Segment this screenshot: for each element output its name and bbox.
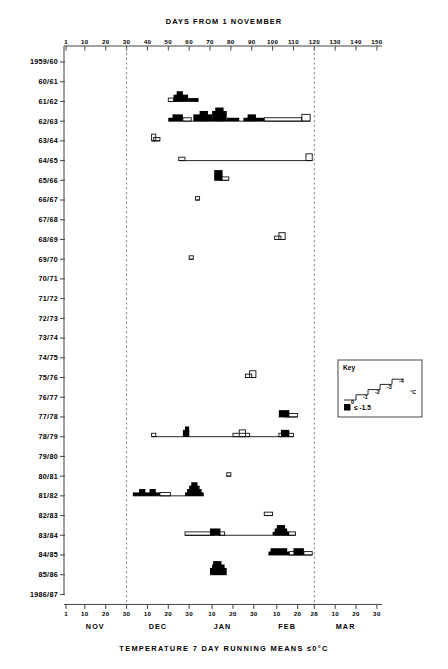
cold-spell-filled (279, 410, 289, 417)
data-row (264, 512, 272, 515)
cold-spell-filled (213, 561, 221, 575)
data-row (152, 426, 294, 436)
chart-caption: TEMPERATURE 7 DAY RUNNING MEANS ≤0°C (119, 644, 328, 653)
y-axis-year-label: 83/84 (39, 531, 59, 540)
cold-spell-filled (172, 114, 182, 121)
bottom-axis-month-label: MAR (336, 622, 356, 631)
bottom-axis-month-label: NOV (86, 622, 105, 631)
y-axis-year-label: 64/65 (39, 156, 59, 165)
y-axis-year-label: 85/86 (39, 570, 59, 579)
bottom-axis-tick-label: 30 (373, 610, 381, 617)
y-axis-year-label: 66/67 (39, 195, 59, 204)
data-row (245, 371, 255, 378)
top-axis-tick-label: 60 (185, 38, 193, 45)
bottom-axis-month-label: DEC (149, 622, 167, 631)
data-row (214, 170, 229, 180)
cold-spell-outline (154, 137, 160, 140)
y-axis-year-label: 68/69 (39, 235, 59, 244)
bottom-axis-tick-label: 30 (250, 610, 258, 617)
top-axis-tick-label: 10 (81, 38, 89, 45)
top-axis-tick-label: 70 (206, 38, 214, 45)
data-row (268, 548, 312, 555)
cold-spell-outline (168, 98, 173, 101)
temperature-running-means-chart: DAYS FROM 1 NOVEMBER11020304050607080901… (0, 0, 448, 669)
data-row (152, 134, 160, 141)
data-row (227, 473, 231, 476)
cold-spell-outline (152, 433, 156, 436)
cold-spell-outline (275, 236, 281, 239)
top-axis-tick-label: 30 (123, 38, 131, 45)
y-axis-year-label: 63/64 (39, 136, 59, 145)
cold-spell-filled (133, 492, 160, 495)
y-axis-year-label: 82/83 (39, 511, 59, 520)
top-axis-tick-label: 100 (267, 38, 279, 45)
cold-spell-filled (150, 489, 156, 496)
cold-spell-outline (185, 532, 214, 535)
y-axis-year-label: 78/79 (39, 432, 59, 441)
y-axis-year-label: 1959/60 (30, 57, 58, 66)
y-axis-year-label: 75/76 (39, 373, 59, 382)
cold-spell-filled (191, 482, 197, 496)
y-axis-year-label: 71/72 (39, 294, 59, 303)
cold-spell-outline (227, 473, 231, 476)
top-axis-tick-label: 40 (144, 38, 152, 45)
top-axis-tick-label: 50 (165, 38, 173, 45)
y-axis-year-label: 73/74 (39, 333, 59, 342)
cold-spell-filled (185, 426, 189, 436)
bottom-axis-tick-label: 20 (352, 610, 360, 617)
cold-spell-filled (281, 430, 289, 437)
cold-spell-filled (277, 525, 285, 535)
cold-spell-outline (160, 492, 170, 495)
y-axis-year-label: 74/75 (39, 353, 59, 362)
cold-spell-filled (177, 91, 183, 101)
y-axis-year-label: 72/73 (39, 314, 59, 323)
data-row (179, 154, 313, 161)
cold-spell-outline (306, 154, 312, 161)
cold-spell-filled (293, 548, 303, 555)
cold-spell-outline (189, 256, 193, 259)
y-axis-year-label: 70/71 (39, 274, 59, 283)
bottom-axis-tick-label: 20 (294, 610, 302, 617)
cold-spell-outline (183, 118, 191, 121)
data-row (189, 256, 193, 259)
y-axis-year-label: 79/80 (39, 452, 59, 461)
bottom-axis-tick-label: 10 (144, 610, 152, 617)
bottom-axis-month-label: FEB (278, 622, 296, 631)
bottom-axis-tick-label: 10 (331, 610, 339, 617)
bottom-axis-tick-label: 30 (123, 610, 131, 617)
cold-spell-outline (264, 512, 272, 515)
y-axis-year-label: 80/81 (39, 472, 59, 481)
top-axis-tick-label: 20 (102, 38, 110, 45)
cold-spell-filled (248, 114, 256, 121)
top-axis-tick-label: 80 (227, 38, 235, 45)
top-axis-tick-label: 130 (329, 38, 341, 45)
data-row (275, 233, 285, 240)
key-filled-label: ≤ -1.5 (354, 404, 371, 411)
bottom-axis-tick-label: 10 (208, 610, 216, 617)
top-axis-tick-label: 150 (371, 38, 383, 45)
data-row (133, 482, 204, 496)
cold-spell-outline (302, 114, 310, 121)
bottom-axis-tick-label: 20 (102, 610, 110, 617)
cold-spell-outline (264, 118, 302, 121)
chart-title: DAYS FROM 1 NOVEMBER (166, 17, 283, 26)
cold-spell-filled (210, 528, 220, 535)
top-axis-tick-label: 110 (288, 38, 299, 45)
key-step-label: -3 (387, 384, 392, 390)
key-unit-label: °C (410, 389, 416, 395)
cold-spell-outline (304, 552, 312, 555)
top-axis-tick-label: 90 (248, 38, 256, 45)
y-axis-year-label: 61/62 (39, 97, 59, 106)
key-step-label: -1 (363, 394, 368, 400)
cold-spell-filled (188, 98, 198, 101)
cold-spell-outline (195, 197, 199, 200)
top-axis-tick-label: 140 (350, 38, 362, 45)
data-row (210, 561, 227, 575)
y-axis-year-label: 67/68 (39, 215, 59, 224)
bottom-axis-tick-label: 20 (165, 610, 173, 617)
key-step-label: -2 (375, 389, 380, 395)
y-axis-year-label: 81/82 (39, 491, 59, 500)
y-axis-year-label: 77/78 (39, 412, 59, 421)
bottom-axis-tick-label: 20 (229, 610, 237, 617)
y-axis-year-label: 62/63 (39, 117, 59, 126)
